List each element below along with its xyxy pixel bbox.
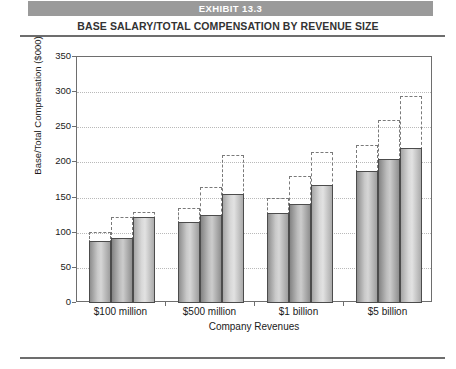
bar-total-compensation xyxy=(400,96,422,151)
bar-base-salary xyxy=(311,185,333,303)
y-axis-tick-label: 100 xyxy=(39,226,71,237)
bar-total-compensation xyxy=(222,155,244,196)
bar-base-salary xyxy=(378,159,400,303)
bar-base-salary xyxy=(356,171,378,303)
exhibit-header-bar: EXHIBIT 13.3 xyxy=(28,1,433,16)
x-axis-title: Company Revenues xyxy=(76,321,432,332)
bar-base-salary xyxy=(289,204,311,303)
exhibit-number-label: EXHIBIT 13.3 xyxy=(199,3,262,14)
y-axis-tick-label: 150 xyxy=(39,191,71,202)
y-axis-tick-label: 0 xyxy=(39,296,71,307)
exhibit-subtitle: BASE SALARY/TOTAL COMPENSATION BY REVENU… xyxy=(0,17,456,34)
bar-total-compensation xyxy=(111,217,133,240)
header-divider-rule xyxy=(20,35,445,37)
bar-base-salary xyxy=(178,222,200,303)
chart-canvas: Base/Total Compensation ($000) 050100150… xyxy=(0,40,456,355)
y-axis-tick-label: 300 xyxy=(39,85,71,96)
bar-total-compensation xyxy=(289,176,311,205)
y-axis-title: Base/Total Compensation ($000) xyxy=(32,11,43,201)
bar-base-salary xyxy=(89,241,111,303)
bar-base-salary xyxy=(267,213,289,303)
y-axis-tick-label: 200 xyxy=(39,155,71,166)
x-axis-tick-label: $100 million xyxy=(76,306,165,317)
bar-total-compensation xyxy=(200,187,222,217)
footer-divider-rule xyxy=(20,357,445,359)
plot-area xyxy=(76,56,432,302)
y-axis-tick-label: 250 xyxy=(39,120,71,131)
bar-total-compensation xyxy=(311,152,333,187)
bar-total-compensation xyxy=(356,145,378,173)
y-axis-tick-label: 350 xyxy=(39,50,71,61)
bar-base-salary xyxy=(222,194,244,303)
bar-base-salary xyxy=(400,148,422,303)
x-axis-tick-label: $500 million xyxy=(165,306,254,317)
chart-title: BASE SALARY/TOTAL COMPENSATION BY REVENU… xyxy=(77,20,378,32)
x-axis-tick-label: $5 billion xyxy=(343,306,432,317)
gridline xyxy=(77,92,431,93)
bar-base-salary xyxy=(200,215,222,303)
y-axis-tick-label: 50 xyxy=(39,261,71,272)
y-axis-tick-mark xyxy=(72,302,76,303)
bar-base-salary xyxy=(111,238,133,303)
bar-total-compensation xyxy=(378,120,400,161)
bar-base-salary xyxy=(133,217,155,303)
x-axis-tick-label: $1 billion xyxy=(254,306,343,317)
